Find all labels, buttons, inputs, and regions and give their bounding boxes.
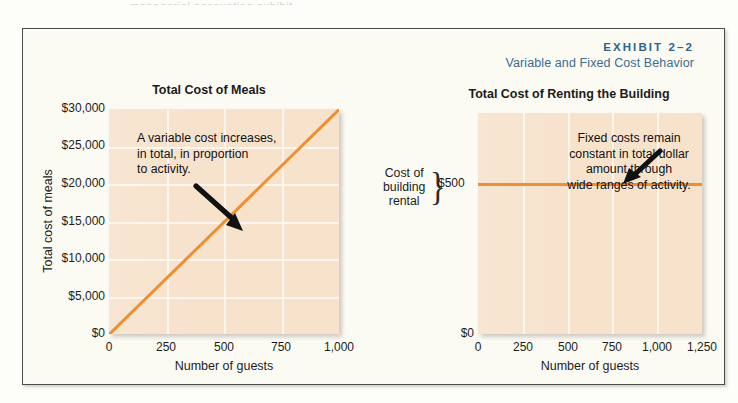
left-annotation-line-2: in total, in proportion — [137, 147, 297, 163]
left-xtick-750: 750 — [261, 340, 301, 354]
right-plot-area: Fixed costs remain constant in total dol… — [478, 113, 702, 334]
left-ytick-10000: $10,000 — [25, 251, 105, 265]
left-annotation-line-1: A variable cost increases, — [137, 131, 297, 147]
left-xtick-500: 500 — [204, 340, 244, 354]
right-xtick-500: 500 — [548, 340, 588, 354]
left-xtick-1000: 1,000 — [316, 340, 362, 354]
exhibit-frame: EXHIBIT 2–2 Variable and Fixed Cost Beha… — [22, 28, 725, 385]
left-yaxis-title: Total cost of meals — [41, 141, 55, 301]
right-chart-title: Total Cost of Renting the Building — [429, 87, 709, 101]
scan-artifact-text: managerial accounting exhibit — [130, 0, 340, 5]
right-xaxis-title: Number of guests — [505, 359, 675, 373]
left-annotation-line-3: to activity. — [137, 162, 297, 178]
left-xtick-0: 0 — [89, 340, 129, 354]
right-annotation-arrow-icon — [616, 147, 668, 187]
left-ytick-5000: $5,000 — [25, 289, 105, 303]
left-plot-area: A variable cost increases, in total, in … — [109, 109, 339, 334]
left-chart-title: Total Cost of Meals — [69, 83, 349, 97]
left-ytick-15000: $15,000 — [25, 214, 105, 228]
left-ytick-25000: $25,000 — [25, 138, 105, 152]
chart-total-cost-of-renting: Total Cost of Renting the Building Fixed… — [363, 29, 726, 386]
left-annotation-arrow-icon — [193, 183, 255, 237]
left-ytick-20000: $20,000 — [25, 176, 105, 190]
right-xtick-750: 750 — [592, 340, 632, 354]
right-ytick-0: $0 — [426, 326, 474, 340]
left-xtick-250: 250 — [146, 340, 186, 354]
gridline-horizontal-10000 — [109, 259, 339, 261]
gridline-vertical-250 — [523, 113, 525, 334]
right-xtick-1000: 1,000 — [634, 340, 680, 354]
chart-total-cost-of-meals: Total Cost of Meals A variable cost incr… — [23, 29, 363, 386]
right-xtick-250: 250 — [503, 340, 543, 354]
left-ytick-0: $0 — [25, 326, 105, 340]
right-annotation-line-1: Fixed costs remain — [558, 131, 700, 147]
left-chart-annotation: A variable cost increases, in total, in … — [137, 131, 297, 178]
brace-label-text: Cost of building rental — [383, 166, 425, 208]
left-ytick-30000: $30,000 — [25, 101, 105, 115]
left-xaxis-title: Number of guests — [139, 359, 309, 373]
right-ytick-500: $500 — [438, 176, 476, 190]
right-xtick-0: 0 — [458, 340, 498, 354]
right-xtick-1250: 1,250 — [679, 340, 725, 354]
